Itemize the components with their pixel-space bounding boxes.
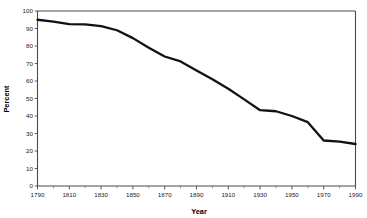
- y-tick-label: 10: [26, 165, 33, 172]
- x-axis-ticks: [38, 186, 356, 189]
- y-tick-label: 90: [26, 25, 33, 32]
- y-axis-tick-labels: 0102030405060708090100: [23, 7, 34, 189]
- x-tick-label: 1890: [190, 191, 204, 198]
- x-tick-label: 1950: [285, 191, 299, 198]
- y-tick-label: 50: [26, 95, 33, 102]
- plot-frame: [38, 11, 356, 186]
- chart-container: 1790181018301850187018901910193019501970…: [0, 0, 367, 218]
- data-line-percent: [38, 20, 356, 144]
- y-tick-label: 100: [23, 7, 34, 14]
- x-tick-label: 1870: [158, 191, 172, 198]
- data-series-layer: [38, 20, 356, 144]
- x-tick-label: 1830: [94, 191, 108, 198]
- x-tick-label: 1850: [126, 191, 140, 198]
- line-chart: 1790181018301850187018901910193019501970…: [0, 0, 367, 218]
- x-tick-label: 1790: [31, 191, 45, 198]
- y-tick-label: 70: [26, 60, 33, 67]
- x-axis-tick-labels: 1790181018301850187018901910193019501970…: [31, 191, 363, 198]
- x-tick-label: 1930: [253, 191, 267, 198]
- x-tick-label: 1990: [349, 191, 363, 198]
- x-tick-label: 1970: [317, 191, 331, 198]
- y-tick-label: 80: [26, 42, 33, 49]
- y-axis-title: Percent: [2, 85, 11, 113]
- y-tick-label: 40: [26, 112, 33, 119]
- x-tick-label: 1810: [62, 191, 76, 198]
- y-tick-label: 30: [26, 130, 33, 137]
- y-tick-label: 0: [29, 182, 33, 189]
- y-tick-label: 20: [26, 147, 33, 154]
- y-tick-label: 60: [26, 77, 33, 84]
- x-axis-title: Year: [191, 207, 207, 216]
- x-tick-label: 1910: [221, 191, 235, 198]
